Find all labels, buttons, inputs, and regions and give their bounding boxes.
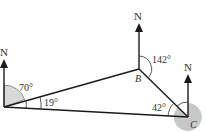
arc-a-19-outer (40, 97, 41, 109)
north-arrow-a-icon (0, 59, 8, 68)
point-b-label: B (135, 73, 141, 84)
bearings-diagram: N N N 70° 19° 142° 42° B C (0, 0, 206, 132)
angle-a-bearing-label: 70° (19, 82, 33, 93)
angle-c-interior-label: 42° (152, 102, 166, 113)
north-arrow-c-icon (184, 74, 192, 83)
north-label-a: N (0, 46, 8, 58)
angle-a-interior-label: 19° (44, 97, 58, 108)
point-c-label: C (190, 119, 197, 130)
angle-b-bearing-label: 142° (152, 54, 171, 65)
diagram-svg: N N N 70° 19° 142° 42° B C (0, 0, 206, 132)
arc-c-north (177, 102, 188, 106)
north-arrow-b-icon (135, 23, 143, 32)
arc-c-42 (168, 103, 174, 116)
north-label-c: N (184, 61, 192, 73)
north-label-b: N (134, 10, 142, 22)
